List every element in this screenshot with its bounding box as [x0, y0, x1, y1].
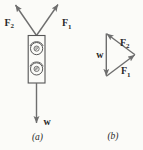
pulley-sheave-lower	[30, 62, 43, 75]
sheave-wheel	[30, 43, 42, 55]
free-body-diagram: F2 F1 w (a)	[5, 5, 73, 144]
physics-figure: F2 F1 w (a) w F2 F1 (b)	[0, 0, 143, 150]
caption-a: (a)	[32, 132, 43, 143]
triangle-weight-label: w	[96, 49, 104, 60]
diagram-svg: F2 F1 w (a) w F2 F1 (b)	[0, 0, 143, 150]
f2-vector-arrow	[16, 5, 37, 36]
sheave-wheel	[30, 63, 42, 75]
triangle-f1-label: F1	[121, 65, 131, 79]
force-triangle: w F2 F1 (b)	[96, 34, 135, 143]
caption-b: (b)	[107, 131, 118, 142]
f1-vector-arrow	[37, 5, 59, 36]
pulley-sheave-upper	[30, 42, 43, 55]
f2-label: F2	[5, 17, 15, 31]
weight-label: w	[44, 116, 52, 127]
axle-hatching	[35, 67, 39, 71]
f1-label: F1	[62, 17, 72, 31]
axle-hatching	[35, 46, 39, 50]
